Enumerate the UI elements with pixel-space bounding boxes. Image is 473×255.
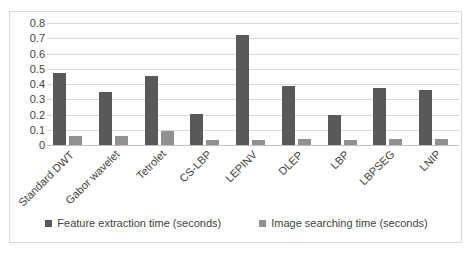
bar-group	[367, 23, 413, 145]
bar-group	[230, 23, 276, 145]
legend-label: Feature extraction time (seconds)	[57, 217, 221, 229]
bar-image-searching-time[interactable]	[69, 136, 82, 145]
chart-container: 0.80.70.60.50.40.30.20.10 Standard DWTGa…	[9, 11, 462, 243]
plot-area	[47, 23, 459, 145]
bar-group	[93, 23, 139, 145]
y-axis: 0.80.70.60.50.40.30.20.10	[19, 23, 45, 145]
bar-image-searching-time[interactable]	[298, 139, 311, 145]
bar-group	[47, 23, 93, 145]
x-axis-tick-label: LBP	[328, 148, 351, 171]
bar-feature-extraction-time[interactable]	[419, 90, 432, 145]
x-axis-tick-label: CS-LBP	[177, 148, 214, 185]
x-axis-tick-label: LBPSEG	[357, 148, 397, 188]
bar-feature-extraction-time[interactable]	[53, 73, 66, 145]
x-axis-tick-label-text: LNIP	[417, 148, 443, 174]
chart-legend: Feature extraction time (seconds) Image …	[10, 217, 463, 229]
bar-feature-extraction-time[interactable]	[373, 88, 386, 145]
bar-feature-extraction-time[interactable]	[145, 76, 158, 145]
x-axis-tick-label: LNIP	[417, 148, 443, 174]
bar-group	[184, 23, 230, 145]
bar-feature-extraction-time[interactable]	[99, 92, 112, 145]
y-axis-tick-label: 0.6	[30, 49, 45, 60]
y-axis-tick-label: 0.8	[30, 18, 45, 29]
bar-group	[276, 23, 322, 145]
bar-image-searching-time[interactable]	[252, 140, 265, 145]
x-axis-tick-label-text: LBP	[328, 148, 351, 171]
x-axis-tick-label-text: CS-LBP	[177, 148, 214, 185]
bar-image-searching-time[interactable]	[206, 140, 219, 145]
legend-swatch-icon	[45, 220, 52, 227]
bar-image-searching-time[interactable]	[435, 139, 448, 145]
y-axis-tick-label: 0	[39, 140, 45, 151]
legend-item-feature-extraction-time[interactable]: Feature extraction time (seconds)	[45, 217, 221, 229]
x-axis-tick-label: Tetrolet	[134, 148, 168, 182]
y-axis-tick-label: 0.1	[30, 125, 45, 136]
x-axis-tick-label-text: DLEP	[276, 148, 305, 177]
bar-image-searching-time[interactable]	[161, 131, 174, 145]
bar-feature-extraction-time[interactable]	[190, 114, 203, 145]
bar-image-searching-time[interactable]	[115, 136, 128, 145]
bar-feature-extraction-time[interactable]	[282, 86, 295, 145]
bar-group	[322, 23, 368, 145]
y-axis-tick-label: 0.4	[30, 79, 45, 90]
legend-swatch-icon	[259, 220, 266, 227]
y-axis-tick-label: 0.2	[30, 110, 45, 121]
x-axis-tick-label: DLEP	[276, 148, 305, 177]
bar-image-searching-time[interactable]	[344, 140, 357, 145]
x-axis-tick-label-text: Tetrolet	[134, 148, 168, 182]
legend-item-image-searching-time[interactable]: Image searching time (seconds)	[259, 217, 428, 229]
y-axis-tick-label: 0.5	[30, 64, 45, 75]
legend-label: Image searching time (seconds)	[271, 217, 428, 229]
y-axis-tick-label: 0.7	[30, 33, 45, 44]
x-axis: Standard DWTGabor waveletTetroletCS-LBPL…	[47, 146, 459, 214]
bar-group	[413, 23, 459, 145]
bar-image-searching-time[interactable]	[389, 139, 402, 145]
x-axis-tick-label-text: LEPINV	[223, 148, 259, 184]
y-axis-tick-label: 0.3	[30, 94, 45, 105]
bar-group	[139, 23, 185, 145]
x-axis-tick-label: LEPINV	[223, 148, 259, 184]
bar-feature-extraction-time[interactable]	[328, 115, 341, 145]
bar-feature-extraction-time[interactable]	[236, 35, 249, 145]
x-axis-tick-label-text: LBPSEG	[357, 148, 397, 188]
